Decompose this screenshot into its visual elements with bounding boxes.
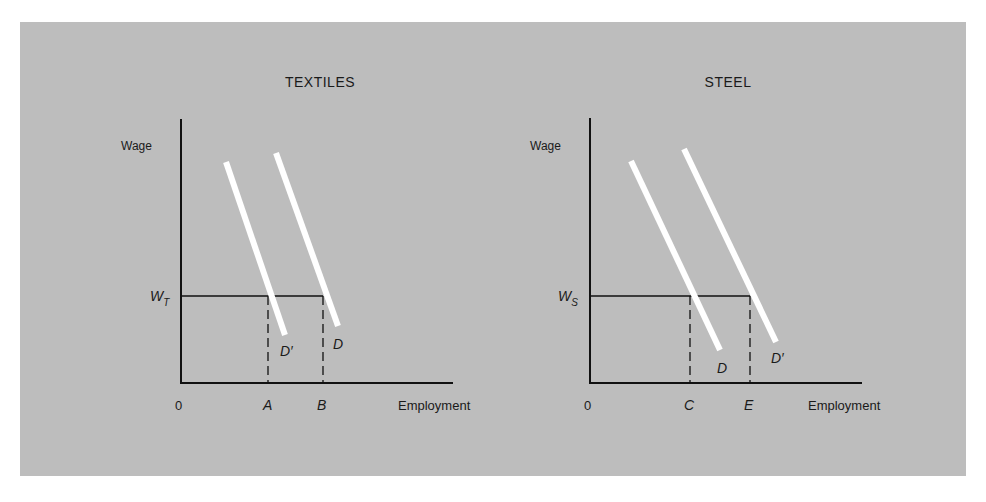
textiles-curve-d-prime-label: D′ — [280, 343, 294, 359]
steel-y-axis-label: Wage — [530, 139, 561, 153]
textiles-curve-d-prime — [226, 162, 285, 335]
labor-demand-diagrams: TEXTILES Wage WT D′ D 0 A B Employment S… — [0, 0, 986, 502]
textiles-title: TEXTILES — [285, 74, 355, 90]
steel-curve-d-prime — [684, 149, 776, 342]
textiles-y-axis-label: Wage — [121, 139, 152, 153]
steel-x-axis-label: Employment — [808, 398, 881, 413]
textiles-x-axis-label: Employment — [398, 398, 471, 413]
steel-curve-d — [631, 161, 720, 350]
textiles-chart: TEXTILES Wage WT D′ D 0 A B Employment — [121, 74, 471, 413]
textiles-curve-d-label: D — [333, 336, 343, 352]
textiles-origin-label: 0 — [175, 398, 182, 413]
textiles-marker-a-label: A — [262, 397, 272, 413]
steel-marker-c-label: C — [684, 397, 695, 413]
steel-wage-label: WS — [558, 288, 578, 308]
steel-marker-e-label: E — [744, 397, 754, 413]
steel-chart: STEEL Wage WS D D′ 0 C E Employment — [530, 74, 881, 413]
steel-title: STEEL — [705, 74, 752, 90]
steel-curve-d-label: D — [717, 360, 727, 376]
steel-origin-label: 0 — [584, 398, 591, 413]
textiles-marker-b-label: B — [317, 397, 326, 413]
steel-curve-d-prime-label: D′ — [771, 350, 785, 366]
textiles-curve-d — [276, 153, 338, 326]
textiles-wage-label: WT — [150, 288, 170, 308]
